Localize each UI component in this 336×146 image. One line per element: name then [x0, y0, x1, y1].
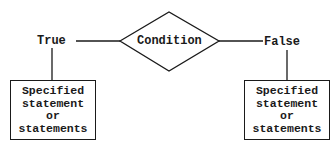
false-box-line-3: or [245, 110, 329, 123]
false-label: False [264, 36, 300, 48]
false-box-line-1: Specified [245, 85, 329, 98]
condition-label: Condition [137, 35, 202, 47]
false-box-line-4: statements [245, 123, 329, 136]
true-box-line-1: Specified [11, 85, 95, 98]
true-box-line-3: or [11, 110, 95, 123]
true-statement-box: Specified statement or statements [10, 80, 96, 140]
true-label: True [37, 35, 66, 47]
true-box-line-4: statements [11, 123, 95, 136]
false-statement-box: Specified statement or statements [244, 80, 330, 140]
